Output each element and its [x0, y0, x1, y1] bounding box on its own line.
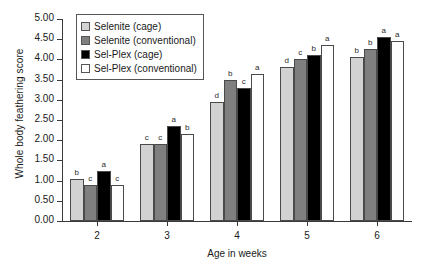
y-axis-tick-label: 2.00 — [35, 133, 54, 144]
y-axis-tick-label: 1.00 — [35, 174, 54, 185]
y-axis-tick: 1.50 — [57, 160, 62, 161]
x-axis-tick — [97, 221, 98, 226]
legend-item: Selenite (cage) — [81, 19, 197, 33]
y-axis-tick: 5.00 — [57, 19, 62, 20]
y-axis-tick-label: 4.00 — [35, 52, 54, 63]
y-axis-tick: 3.50 — [57, 80, 62, 81]
significance-letter: a — [387, 30, 407, 39]
significance-letter: a — [94, 160, 114, 169]
legend-item: Sel-Plex (cage) — [81, 47, 197, 61]
legend-item: Sel-Plex (conventional) — [81, 61, 197, 75]
legend-item-label: Selenite (cage) — [94, 21, 161, 32]
bar-chart-figure: Whole body feathering score 0.000.501.00… — [0, 0, 421, 274]
y-axis-tick: 3.00 — [57, 100, 62, 101]
legend-item: Selenite (conventional) — [81, 33, 197, 47]
y-axis-tick-label: 2.50 — [35, 113, 54, 124]
bar — [377, 37, 391, 221]
x-axis-tick — [237, 221, 238, 226]
y-axis-tick-label: 4.50 — [35, 32, 54, 43]
bar — [237, 88, 251, 221]
legend-item-label: Sel-Plex (cage) — [94, 49, 162, 60]
bar — [84, 185, 98, 221]
legend-swatch-icon — [81, 64, 90, 73]
bar — [321, 45, 335, 221]
bar — [181, 134, 195, 221]
bar — [210, 102, 224, 221]
y-axis-tick: 2.50 — [57, 120, 62, 121]
legend-item-label: Sel-Plex (conventional) — [94, 63, 197, 74]
bar — [391, 41, 405, 221]
x-axis-tick-label: 5 — [287, 230, 327, 241]
y-axis-title: Whole body feathering score — [14, 19, 25, 209]
bar — [307, 55, 321, 221]
y-axis-tick-label: 1.50 — [35, 153, 54, 164]
x-axis-tick — [167, 221, 168, 226]
y-axis-tick-label: 0.00 — [35, 214, 54, 225]
legend-swatch-icon — [81, 22, 90, 31]
bar — [154, 144, 168, 221]
y-axis-tick: 0.00 — [57, 221, 62, 222]
bar — [251, 74, 265, 221]
significance-letter: b — [177, 123, 197, 132]
bar — [280, 67, 294, 221]
x-axis-title: Age in weeks — [62, 248, 412, 259]
significance-letter: a — [247, 63, 267, 72]
y-axis-tick-label: 0.50 — [35, 194, 54, 205]
bar — [140, 144, 154, 221]
y-axis-tick: 4.50 — [57, 39, 62, 40]
x-axis-tick-label: 2 — [77, 230, 117, 241]
bar — [350, 57, 364, 221]
x-axis-tick-label: 4 — [217, 230, 257, 241]
y-axis-tick: 4.00 — [57, 59, 62, 60]
y-axis-tick-label: 5.00 — [35, 12, 54, 23]
x-axis-tick — [377, 221, 378, 226]
x-axis-tick — [307, 221, 308, 226]
bar — [364, 49, 378, 221]
y-axis-line — [62, 19, 63, 221]
y-axis-tick: 1.00 — [57, 181, 62, 182]
y-axis-tick: 0.50 — [57, 201, 62, 202]
bar — [294, 59, 308, 221]
legend-swatch-icon — [81, 36, 90, 45]
x-axis-tick-label: 3 — [147, 230, 187, 241]
bar — [70, 179, 84, 221]
bar — [224, 80, 238, 221]
significance-letter: a — [317, 34, 337, 43]
bar — [111, 185, 125, 221]
x-axis-tick-label: 6 — [357, 230, 397, 241]
y-axis-tick-label: 3.00 — [35, 93, 54, 104]
y-axis-tick: 2.00 — [57, 140, 62, 141]
significance-letter: c — [107, 174, 127, 183]
bar — [167, 126, 181, 221]
legend-item-label: Selenite (conventional) — [94, 35, 196, 46]
chart-legend: Selenite (cage) Selenite (conventional) … — [76, 14, 204, 80]
legend-swatch-icon — [81, 50, 90, 59]
y-axis-tick-label: 3.50 — [35, 73, 54, 84]
